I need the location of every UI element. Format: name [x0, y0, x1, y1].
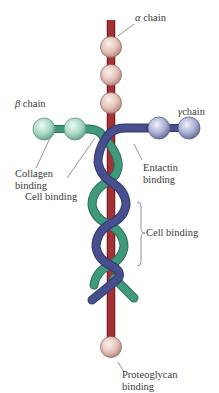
entactin-binding-line2: binding [143, 174, 178, 186]
collagen-binding-line1: Collagen [15, 168, 53, 180]
proteoglycan-binding-line1: Proteoglycan [122, 369, 177, 381]
beta-symbol: β [15, 98, 20, 109]
cell-binding-mid-label: Cell binding [146, 227, 198, 239]
gamma-chain-text: chain [182, 106, 205, 117]
beta-chain-text: chain [23, 98, 46, 109]
entactin-binding-line1: Entactin [143, 162, 178, 174]
gamma-chain-label: γchain [178, 106, 205, 118]
collagen-binding-label: Collagen binding [15, 168, 53, 192]
beta-chain-label: β chain [15, 98, 46, 110]
alpha-symbol: α [135, 12, 141, 23]
entactin-binding-label: Entactin binding [143, 162, 178, 186]
proteoglycan-binding-label: Proteoglycan binding [122, 369, 177, 393]
proteoglycan-binding-line2: binding [122, 381, 177, 393]
alpha-chain-text: chain [143, 12, 166, 23]
alpha-chain-label: α chain [135, 12, 166, 24]
cell-binding-top-label: Cell binding [25, 191, 77, 203]
gamma-chain [92, 128, 178, 300]
